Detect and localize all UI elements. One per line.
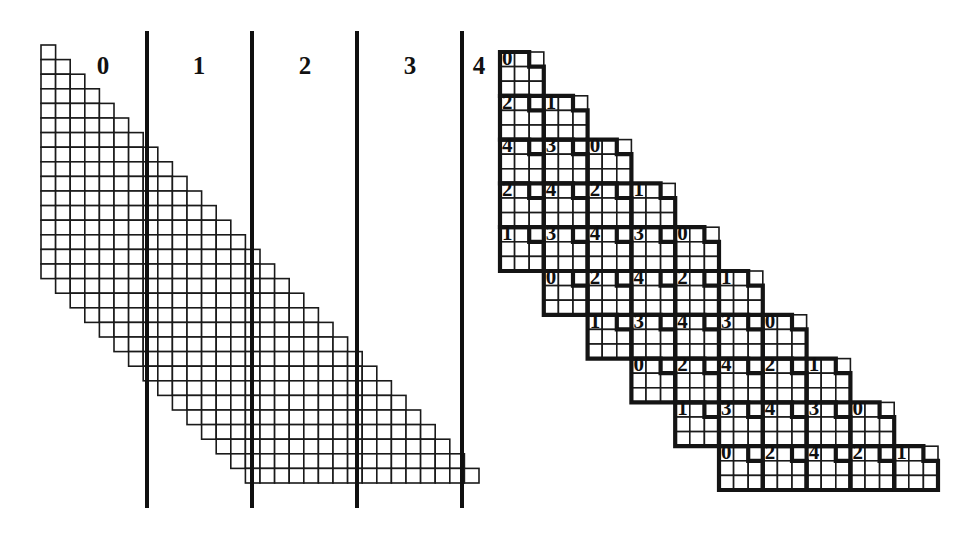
block-subcell	[646, 315, 661, 330]
grid-cell	[202, 308, 217, 323]
grid-cell	[41, 147, 56, 162]
block-subcell	[909, 461, 924, 476]
block-digit: 4	[809, 440, 820, 464]
block-digit: 2	[590, 265, 601, 289]
grid-cell	[275, 322, 290, 337]
block-subcell	[573, 198, 588, 213]
block-subcell	[646, 300, 661, 315]
grid-cell	[348, 425, 363, 440]
block-subcell	[646, 388, 661, 403]
grid-cell	[275, 425, 290, 440]
block-digit: 1	[502, 221, 513, 245]
block-subcell	[646, 213, 661, 228]
block-subcell	[661, 300, 676, 315]
grid-cell	[304, 468, 319, 483]
block-subcell	[836, 461, 851, 476]
block-subcell	[734, 344, 749, 359]
grid-cell	[187, 337, 202, 352]
grid-cell	[85, 118, 100, 133]
grid-cell	[216, 220, 231, 235]
block-subcell	[529, 198, 544, 213]
block-subcell	[690, 315, 705, 330]
block-subcell	[821, 388, 836, 403]
grid-cell	[406, 454, 421, 469]
grid-cell	[406, 468, 421, 483]
block-subcell	[661, 388, 676, 403]
grid-cell	[114, 162, 129, 177]
grid-cell	[318, 322, 333, 337]
grid-cell	[158, 366, 173, 381]
grid-cell	[41, 191, 56, 206]
grid-cell	[56, 133, 71, 148]
grid-cell	[85, 308, 100, 323]
grid-cell	[172, 264, 187, 279]
grid-cell	[129, 337, 144, 352]
block-digit: 1	[633, 177, 644, 201]
block-subcell	[734, 446, 749, 461]
grid-cell	[187, 293, 202, 308]
block-subcell	[748, 286, 763, 301]
grid-cell	[85, 279, 100, 294]
block-digit: 3	[633, 309, 644, 333]
grid-cell	[275, 366, 290, 381]
grid-cell	[129, 293, 144, 308]
block-subcell	[734, 475, 749, 490]
grid-cell	[172, 381, 187, 396]
grid-cell	[172, 308, 187, 323]
grid-cell	[187, 249, 202, 264]
grid-cell	[129, 264, 144, 279]
block-subcell	[704, 315, 719, 330]
grid-cell	[85, 147, 100, 162]
grid-cell	[260, 308, 275, 323]
grid-cell	[216, 352, 231, 367]
grid-cell	[289, 454, 304, 469]
grid-cell	[172, 206, 187, 221]
block-subcell	[602, 286, 617, 301]
grid-cell	[129, 147, 144, 162]
grid-cell	[56, 220, 71, 235]
grid-cell	[435, 454, 450, 469]
block-subcell	[807, 475, 822, 490]
grid-cell	[231, 395, 246, 410]
grid-cell	[129, 279, 144, 294]
grid-cell	[289, 395, 304, 410]
block-subcell	[661, 271, 676, 286]
grid-cell	[231, 439, 246, 454]
grid-cell	[216, 293, 231, 308]
grid-cell	[41, 264, 56, 279]
grid-cell	[289, 352, 304, 367]
grid-cell	[41, 206, 56, 221]
block-subcell	[704, 402, 719, 417]
grid-cell	[41, 133, 56, 148]
block-subcell	[558, 227, 573, 242]
block-subcell	[821, 402, 836, 417]
grid-cell	[216, 279, 231, 294]
block-subcell	[602, 271, 617, 286]
grid-cell	[318, 425, 333, 440]
grid-cell	[85, 191, 100, 206]
grid-cell	[114, 206, 129, 221]
grid-cell	[362, 395, 377, 410]
grid-cell	[275, 293, 290, 308]
block-digit: 0	[765, 309, 776, 333]
grid-cell	[41, 89, 56, 104]
block-subcell	[792, 475, 807, 490]
block-subcell	[704, 373, 719, 388]
grid-cell	[85, 206, 100, 221]
block-subcell	[865, 417, 880, 432]
block-subcell	[529, 227, 544, 242]
grid-cell	[56, 89, 71, 104]
grid-cell	[56, 147, 71, 162]
grid-cell	[260, 454, 275, 469]
block-subcell	[734, 417, 749, 432]
grid-cell	[70, 74, 85, 89]
grid-cell	[275, 395, 290, 410]
block-digit: 3	[809, 396, 820, 420]
block-subcell	[515, 125, 530, 140]
grid-cell	[85, 249, 100, 264]
block-subcell	[704, 417, 719, 432]
grid-cell	[202, 410, 217, 425]
grid-cell	[260, 337, 275, 352]
grid-cell	[289, 425, 304, 440]
block-subcell	[558, 96, 573, 111]
